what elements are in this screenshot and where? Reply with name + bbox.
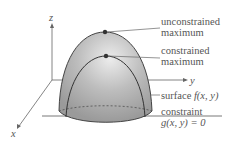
unconstrained-max-point bbox=[103, 30, 107, 34]
constraint-label: constraint g(x, y) = 0 bbox=[161, 106, 205, 128]
z-axis bbox=[50, 23, 54, 80]
surface-label: surface f(x, y) bbox=[161, 90, 218, 101]
constrained-maximum-label: constrained maximum bbox=[161, 45, 209, 67]
surface-dome bbox=[59, 32, 152, 122]
z-axis-label: z bbox=[49, 12, 53, 23]
y-axis-label: y bbox=[190, 75, 195, 86]
unconstrained-maximum-label: unconstrained maximum bbox=[161, 16, 220, 38]
constrained-max-point bbox=[104, 54, 108, 58]
x-axis bbox=[17, 80, 52, 129]
x-axis-label: x bbox=[11, 128, 16, 139]
